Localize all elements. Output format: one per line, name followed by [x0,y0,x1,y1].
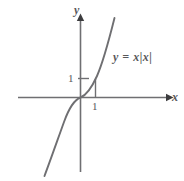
y-axis [77,14,84,173]
y-axis-label: y [74,4,79,16]
plot-canvas [0,0,184,181]
x-axis-label: x [172,91,178,103]
curve-equation-label: y = x|x| [113,51,152,63]
y-axis-tick-label-1: 1 [68,73,74,84]
x-axis-tick-label-1: 1 [92,101,98,112]
figure-container: y x y = x|x| 1 1 [0,0,184,181]
